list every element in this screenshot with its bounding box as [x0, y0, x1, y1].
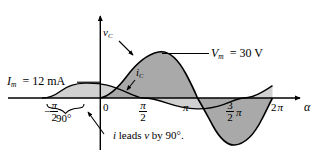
xtick-pi-symbol: π	[236, 106, 242, 118]
xtick-numerator: π	[50, 100, 58, 111]
vc-pointer-arrow	[119, 41, 133, 55]
im-label-sub: m	[11, 80, 16, 89]
caption-v: v	[144, 129, 149, 141]
two-pi-number: 2	[271, 101, 277, 113]
vm-label-sub: m	[218, 52, 223, 61]
xtick-pi-over-2: π 2	[139, 100, 147, 123]
vm-label-value: = 30 V	[230, 46, 263, 60]
xtick-pi-symbol: π	[278, 101, 284, 113]
vm-amplitude-label: Vm = 30 V	[211, 47, 263, 60]
waveform-figure: vC iC Vm = 30 V Im = 12 mA − π 2 90° 0 π…	[0, 0, 322, 156]
xtick-zero: 0	[103, 102, 109, 113]
xtick-numerator: π	[139, 100, 147, 111]
voltage-curve-label: vC	[103, 27, 112, 39]
phase-caption: i leads v by 90°.	[113, 130, 184, 141]
current-curve-label-sub: C	[139, 72, 144, 79]
x-axis-label: α	[304, 101, 310, 113]
caption-i: i	[113, 129, 116, 141]
im-label-value: = 12 mA	[22, 74, 65, 88]
xtick-denominator: 2	[139, 112, 147, 123]
caption-leads: leads	[119, 129, 142, 141]
xtick-pi: π	[183, 102, 189, 113]
caption-by: by 90°.	[152, 129, 184, 141]
xtick-three-pi-over-2: 3 2 π	[226, 100, 242, 123]
caption-pointer-arrow	[88, 112, 104, 134]
voltage-curve-label-sub: C	[108, 32, 113, 39]
phase-brace-label: 90°	[56, 113, 71, 124]
current-curve-label: iC	[136, 67, 144, 79]
xtick-two-pi: 2π	[271, 102, 283, 113]
xtick-denominator: 2	[226, 112, 234, 123]
im-amplitude-label: Im = 12 mA	[7, 75, 65, 88]
xtick-numerator: 3	[226, 100, 234, 111]
